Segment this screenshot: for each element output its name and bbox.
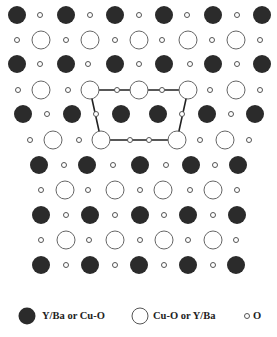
filled-atom [204,6,222,24]
filled-atom [229,156,247,174]
oxygen-atom [211,213,216,218]
oxygen-atom [160,88,165,93]
filled-atom [130,256,148,274]
filled-atom [78,156,96,174]
open-atom [57,231,75,249]
filled-atom [182,156,200,174]
oxygen-atom [137,13,142,18]
filled-atom [253,55,271,73]
filled-atom [131,156,149,174]
open-atom [32,81,50,99]
oxygen-atom [180,112,185,117]
oxygen-atom [211,263,216,268]
oxygen-atom [137,62,142,67]
open-atom [179,81,197,99]
oxygen-atom [210,38,215,43]
oxygen-atom [188,188,193,193]
open-atom [81,81,99,99]
open-atom [154,181,172,199]
oxygen-atom [38,13,43,18]
filled-atom [112,105,130,123]
filled-atom [179,206,197,224]
oxygen-atom [16,88,21,93]
open-atom [179,31,197,49]
open-atom [216,131,234,149]
filled-atom [253,6,271,24]
filled-atom [246,105,264,123]
oxygen-atom [186,238,191,243]
filled-atom [155,55,173,73]
open-atom [227,81,245,99]
oxygen-atom [66,88,71,93]
legend-label-filled: Y/Ba or Cu-O [42,311,105,322]
oxygen-atom [198,138,203,143]
lattice-diagram [0,0,277,337]
open-atom [106,181,124,199]
filled-atom [198,105,216,123]
oxygen-atom [77,138,82,143]
oxygen-atom [64,38,69,43]
open-atom [227,31,245,49]
legend-label-small: O [253,311,261,322]
filled-atom [8,6,26,24]
oxygen-atom [87,238,92,243]
filled-atom [8,55,26,73]
open-atom [168,131,186,149]
legend-label-open: Cu-O or Y/Ba [153,311,215,322]
oxygen-atom [229,112,234,117]
legend-filled-circle-icon [19,308,36,325]
oxygen-atom [38,62,43,67]
oxygen-atom [113,263,118,268]
oxygen-atom [162,213,167,218]
open-atom [56,181,74,199]
open-atom [204,231,222,249]
oxygen-atom [258,88,263,93]
filled-atom [149,105,167,123]
filled-atom [32,206,50,224]
open-atom [204,181,222,199]
filled-atom [227,256,245,274]
filled-atom [155,6,173,24]
filled-atom [57,6,75,24]
filled-atom [179,256,197,274]
oxygen-atom [115,88,120,93]
filled-atom [32,256,50,274]
oxygen-atom [88,13,93,18]
oxygen-atom [138,188,143,193]
filled-atom [63,105,81,123]
filled-atom [81,256,99,274]
open-atom [130,31,148,49]
oxygen-atom [39,238,44,243]
filled-atom [106,6,124,24]
oxygen-atom [247,138,252,143]
open-atom [130,81,148,99]
filled-atom [106,55,124,73]
filled-atom [14,105,32,123]
open-atom [155,231,173,249]
open-atom [106,231,124,249]
open-atom [92,131,110,149]
oxygen-atom [111,163,116,168]
open-atom [44,131,62,149]
oxygen-atom [113,38,118,43]
oxygen-atom [138,238,143,243]
oxygen-atom [235,13,240,18]
oxygen-atom [188,62,193,67]
oxygen-atom [62,163,67,168]
oxygen-atom [160,38,165,43]
filled-atom [57,55,75,73]
oxygen-atom [213,163,218,168]
filled-atom [30,156,48,174]
oxygen-atom [113,213,118,218]
filled-atom [131,206,149,224]
legend-open-circle-icon [132,308,148,324]
filled-atom [228,206,246,224]
oxygen-atom [39,188,44,193]
filled-atom [81,206,99,224]
oxygen-atom [162,263,167,268]
oxygen-atom [128,138,133,143]
oxygen-atom [235,188,240,193]
open-atom [32,31,50,49]
oxygen-atom [185,13,190,18]
filled-atom [204,55,222,73]
